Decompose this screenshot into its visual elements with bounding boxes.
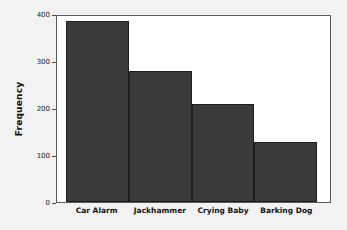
bar xyxy=(192,104,255,202)
y-axis-tick-label: 100 xyxy=(37,153,52,160)
y-axis: 0100200300400 xyxy=(0,0,56,230)
bar-slot xyxy=(129,16,192,202)
bar-chart: Frequency 0100200300400 Car AlarmJackham… xyxy=(0,0,347,230)
bar-slot xyxy=(254,16,330,202)
bar xyxy=(129,71,192,202)
x-axis: Car AlarmJackhammerCrying BabyBarking Do… xyxy=(56,206,331,215)
y-axis-tick-label: 300 xyxy=(37,59,52,66)
x-axis-tick-label: Barking Dog xyxy=(255,206,331,215)
x-axis-tick-label: Jackhammer xyxy=(128,206,191,215)
x-axis-tick-label: Crying Baby xyxy=(192,206,255,215)
plot-area xyxy=(56,15,331,203)
bar xyxy=(254,142,317,202)
x-axis-tick-label: Car Alarm xyxy=(56,206,128,215)
y-axis-tick-label: 400 xyxy=(37,12,52,19)
bar-slot xyxy=(192,16,255,202)
bar xyxy=(66,21,129,202)
bars-layer xyxy=(57,16,330,202)
y-axis-tick-label: 200 xyxy=(37,106,52,113)
bar-slot xyxy=(57,16,129,202)
